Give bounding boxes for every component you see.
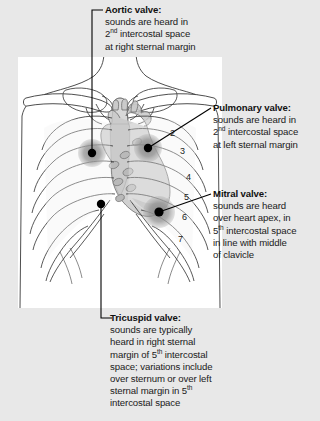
text-line: sounds are heard in [105, 16, 188, 27]
text-line: sounds are heard [213, 200, 286, 211]
text-line: at right sternal margin [105, 41, 195, 52]
text-line: space; variations include [110, 361, 213, 372]
rib-number-7: 7 [178, 234, 183, 244]
aortic-dot [88, 149, 96, 157]
text-line: in line with middle [213, 237, 287, 248]
anatomy-group: 2 3 4 5 6 7 [20, 52, 220, 308]
text-line: intercostal space [110, 397, 180, 408]
pulmonary-dot [144, 144, 152, 152]
tricuspid-dot [97, 200, 105, 208]
callout-pulmonary-body: sounds are heard in 2nd intercostal spac… [213, 114, 298, 151]
text-line: intercostal space [225, 126, 298, 137]
callout-tricuspid: Tricuspid valve: sounds are typically he… [110, 312, 213, 410]
text-line: of clavicle [213, 249, 254, 260]
rib-number-4: 4 [186, 172, 191, 182]
text-line: over sternum or over left [110, 373, 211, 384]
callout-mitral-body: sounds are heard over heart apex, in 5th… [213, 200, 296, 261]
rib-number-5: 5 [184, 192, 189, 202]
callout-tricuspid-heading: Tricuspid valve: [110, 312, 213, 324]
text-line: sounds are typically [110, 324, 192, 335]
text-line: sounds are heard in [213, 114, 296, 125]
callout-pulmonary-heading: Pulmonary valve: [213, 102, 298, 114]
rib-number-6: 6 [182, 212, 187, 222]
text-line: heard in right sternal [110, 336, 195, 347]
text-line: at left sternal margin [213, 139, 298, 150]
callout-mitral: Mitral valve: sounds are heard over hear… [213, 188, 296, 261]
callout-pulmonary: Pulmonary valve: sounds are heard in 2nd… [213, 102, 298, 151]
ordinal-suffix: th [187, 384, 192, 391]
callout-aortic-body: sounds are heard in 2nd intercostal spac… [105, 16, 195, 53]
callout-mitral-heading: Mitral valve: [213, 188, 296, 200]
rib-number-3: 3 [180, 146, 185, 156]
callout-tricuspid-body: sounds are typically heard in right ster… [110, 324, 213, 409]
text-line: margin of 5 [110, 349, 157, 360]
callout-aortic: Aortic valve: sounds are heard in 2nd in… [105, 4, 195, 53]
text-line: intercostal [162, 349, 207, 360]
text-line: intercostal space [224, 225, 297, 236]
mitral-dot [154, 207, 163, 216]
text-line: over heart apex, in [213, 212, 291, 223]
figure-root: 2 3 4 5 6 7 Aortic [0, 0, 320, 421]
text-line: intercostal space [117, 28, 190, 39]
text-line: sternal margin in 5 [110, 385, 187, 396]
tricuspid-leader [101, 204, 112, 318]
callout-aortic-heading: Aortic valve: [105, 4, 195, 16]
